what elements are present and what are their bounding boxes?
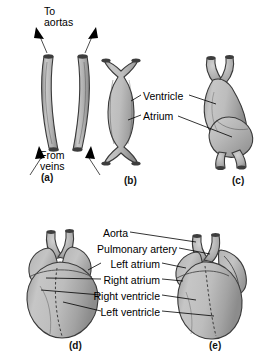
panel-caption-d: (d) — [69, 340, 82, 351]
panel-c-heart — [204, 55, 252, 170]
to-aortas-line2: aortas — [44, 17, 73, 28]
label-left-ventricle: Left ventricle — [0, 307, 160, 318]
label-atrium: Atrium — [143, 111, 173, 122]
panel-caption-b: (b) — [124, 175, 137, 186]
to-aortas-arrows — [34, 27, 98, 53]
label-aorta: Aorta — [0, 228, 128, 239]
label-right-atrium: Right atrium — [0, 275, 160, 286]
panel-caption-e: (e) — [209, 340, 221, 351]
panel-caption-a: (a) — [41, 172, 53, 183]
label-ventricle: Ventricle — [143, 91, 183, 102]
figure-canvas: To aortas From veins Ventricle Atrium Ao… — [0, 0, 274, 362]
label-right-ventricle: Right ventricle — [0, 291, 160, 302]
panel-b-heart — [101, 59, 140, 166]
panel-e-heart — [176, 233, 246, 339]
panel-caption-c: (c) — [232, 175, 244, 186]
label-pulmonary-artery: Pulmonary artery — [0, 244, 177, 255]
from-veins-line2: veins — [40, 161, 65, 172]
panel-a-heart-tubes — [42, 54, 90, 151]
label-left-atrium: Left atrium — [0, 259, 160, 270]
to-aortas-annotation: To aortas — [44, 6, 73, 28]
from-veins-annotation: From veins — [40, 150, 65, 172]
